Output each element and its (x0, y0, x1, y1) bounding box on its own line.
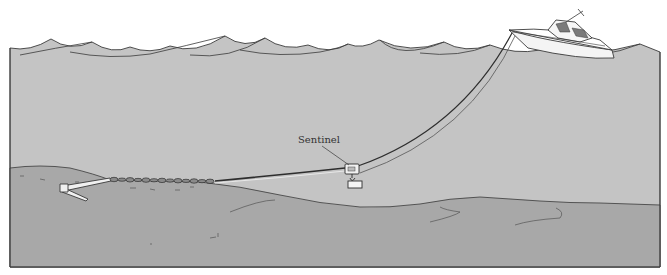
chain-link (198, 180, 206, 183)
sentinel-weight (348, 181, 362, 188)
chain-link (174, 179, 182, 183)
chain-link (166, 179, 174, 182)
chain-link (142, 178, 150, 182)
chain-link (158, 178, 166, 182)
chain-link (150, 179, 158, 182)
chain-link (118, 178, 126, 181)
chain-link (126, 178, 134, 182)
chain-link (206, 179, 214, 183)
chain-link (190, 179, 198, 183)
chain-link (134, 178, 142, 181)
chain-link (110, 177, 118, 181)
sentinel-label: Sentinel (298, 134, 340, 145)
boat-antenna (566, 9, 584, 22)
chain-link (182, 179, 190, 182)
illustration: Sentinel (0, 0, 667, 275)
boat (509, 9, 614, 58)
